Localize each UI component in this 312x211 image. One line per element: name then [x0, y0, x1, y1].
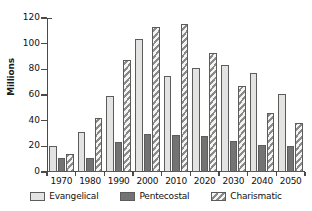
- bar-evangelical-1970: [49, 146, 57, 172]
- y-tick-label: 40: [0, 116, 40, 125]
- bar-charismatic-1970: [66, 154, 74, 172]
- x-tick-label-2050: 2050: [276, 176, 305, 186]
- legend-label-evangelical: Evangelical: [49, 191, 98, 201]
- bar-groups: [47, 18, 305, 172]
- y-tick-label: 100: [0, 39, 40, 48]
- bar-chart: Millions 020406080100120 197019801990200…: [0, 0, 312, 211]
- bar-pentecostal-2050: [287, 146, 295, 172]
- legend-swatch-charismatic-icon: [211, 192, 226, 201]
- x-tick-label-2000: 2000: [133, 176, 162, 186]
- bar-charismatic-2010: [181, 24, 189, 172]
- legend-swatch-pentecostal-icon: [120, 192, 135, 201]
- bar-pentecostal-2010: [172, 135, 180, 172]
- legend-swatch-evangelical-icon: [30, 192, 45, 201]
- y-tick-label: 120: [0, 13, 40, 22]
- bar-charismatic-2000: [152, 27, 160, 172]
- x-tick-label-2010: 2010: [162, 176, 191, 186]
- bar-charismatic-2030: [238, 86, 246, 172]
- bar-evangelical-2020: [192, 68, 200, 172]
- bar-pentecostal-1990: [115, 142, 123, 172]
- bar-pentecostal-2030: [230, 141, 238, 172]
- x-axis-labels: 197019801990200020102020203020402050: [47, 176, 305, 186]
- bar-group-2030: [219, 18, 248, 172]
- bar-group-2050: [276, 18, 305, 172]
- x-tick-label-2020: 2020: [190, 176, 219, 186]
- bar-evangelical-2000: [135, 39, 143, 172]
- bar-pentecostal-1970: [58, 158, 66, 172]
- x-tick-label-1990: 1990: [104, 176, 133, 186]
- bar-group-1990: [104, 18, 133, 172]
- bar-charismatic-2050: [295, 123, 303, 172]
- legend-item-charismatic[interactable]: Charismatic: [211, 191, 281, 201]
- bar-evangelical-2030: [221, 65, 229, 172]
- bar-evangelical-1980: [78, 132, 86, 172]
- chart-legend: EvangelicalPentecostalCharismatic: [0, 191, 312, 201]
- bar-pentecostal-2000: [144, 134, 152, 173]
- x-tick-label-1970: 1970: [47, 176, 76, 186]
- y-tick-label: 60: [0, 90, 40, 99]
- legend-item-pentecostal[interactable]: Pentecostal: [120, 191, 189, 201]
- bar-charismatic-1980: [95, 118, 103, 172]
- legend-item-evangelical[interactable]: Evangelical: [30, 191, 98, 201]
- bar-charismatic-2020: [209, 53, 217, 172]
- x-tick-label-1980: 1980: [76, 176, 105, 186]
- bar-charismatic-1990: [123, 60, 131, 172]
- y-tick-label: 80: [0, 64, 40, 73]
- bar-charismatic-2040: [267, 113, 275, 172]
- legend-label-charismatic: Charismatic: [230, 191, 281, 201]
- bar-evangelical-1990: [106, 96, 114, 172]
- bar-group-2040: [248, 18, 277, 172]
- bar-group-2000: [133, 18, 162, 172]
- x-tick-label-2040: 2040: [248, 176, 277, 186]
- bar-group-1980: [76, 18, 105, 172]
- bar-pentecostal-1980: [86, 158, 94, 172]
- y-tick-label: 0: [0, 167, 40, 176]
- legend-label-pentecostal: Pentecostal: [139, 191, 189, 201]
- bar-pentecostal-2040: [258, 145, 266, 172]
- bar-group-2010: [162, 18, 191, 172]
- bar-evangelical-2040: [250, 73, 258, 172]
- bar-pentecostal-2020: [201, 136, 209, 172]
- bar-evangelical-2050: [278, 94, 286, 172]
- bar-evangelical-2010: [164, 76, 172, 172]
- bar-group-2020: [190, 18, 219, 172]
- bar-group-1970: [47, 18, 76, 172]
- x-tick-label-2030: 2030: [219, 176, 248, 186]
- y-tick-label: 20: [0, 141, 40, 150]
